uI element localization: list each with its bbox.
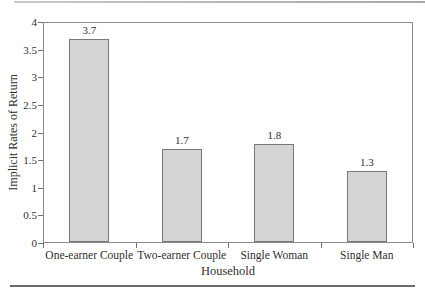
top-rule-line [14, 1, 425, 3]
y-tick-mark [38, 105, 43, 106]
bar-value-label: 3.7 [69, 23, 109, 37]
y-tick-mark [38, 22, 43, 23]
bar-4 [347, 171, 387, 242]
x-axis-title: Household [43, 263, 413, 279]
category-label: Two-earner Couple [136, 248, 229, 263]
category-label: Single Woman [228, 248, 321, 263]
category-label: Single Man [321, 248, 414, 263]
y-tick-mark [38, 215, 43, 216]
y-axis-title: Implicit Rates of Return [5, 22, 22, 244]
x-tick-mark [413, 243, 414, 248]
y-tick-mark [38, 188, 43, 189]
y-tick-mark [38, 160, 43, 161]
y-tick-mark [38, 77, 43, 78]
bottom-rule-line [10, 285, 415, 287]
bar-2 [162, 149, 202, 242]
bar-3 [254, 144, 294, 242]
bar-value-label: 1.8 [254, 128, 294, 142]
bar-1 [69, 39, 109, 242]
bar-value-label: 1.3 [347, 155, 387, 169]
bar-chart-figure: 00.511.522.533.54 3.7One-earner Couple1.… [0, 0, 425, 297]
y-tick-mark [38, 133, 43, 134]
y-tick-mark [38, 50, 43, 51]
bar-value-label: 1.7 [162, 133, 202, 147]
category-label: One-earner Couple [43, 248, 136, 263]
